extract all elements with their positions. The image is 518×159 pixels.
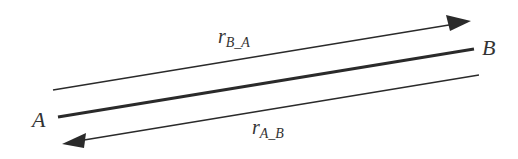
edge-label-r-a-b-sub: A_B <box>259 126 285 141</box>
arrowhead-right-icon <box>446 15 471 31</box>
arrowhead-left-icon <box>62 133 86 148</box>
edge-label-r-b-a-sub: B_A <box>226 35 251 50</box>
edge-label-r-a-b-main: r <box>252 116 260 138</box>
arrow-r-b-a-line <box>53 24 455 90</box>
edge-label-r-b-a-main: r <box>218 25 226 47</box>
edge-label-r-a-b: rA_B <box>252 116 284 141</box>
node-label-b: B <box>482 35 495 60</box>
edge-label-r-b-a: rB_A <box>218 25 250 50</box>
diagram-canvas: A B rB_A rA_B <box>0 0 518 159</box>
node-label-a: A <box>30 107 46 132</box>
link-a-b-line <box>58 49 474 117</box>
